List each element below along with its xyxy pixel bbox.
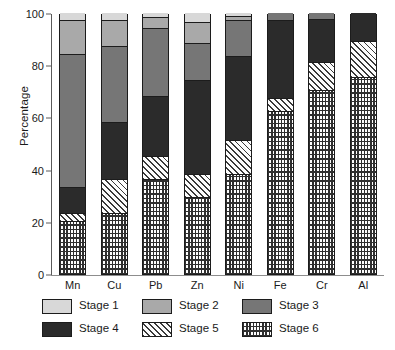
legend-swatch-stage-6	[242, 322, 272, 337]
x-tick-label-mn: Mn	[53, 279, 93, 291]
bar-segment-fe-stage-4	[268, 21, 293, 99]
legend-item-stage-6[interactable]: Stage 6	[242, 319, 342, 339]
bar-segment-fe-stage-3	[268, 13, 293, 21]
x-tick-label-pb: Pb	[136, 279, 176, 291]
bar-segment-ni-stage-3	[226, 21, 251, 58]
legend-label: Stage 4	[79, 323, 119, 335]
legend-row: Stage 4Stage 5Stage 6	[42, 319, 342, 339]
legend-label: Stage 5	[179, 323, 219, 335]
chart-legend: Stage 1Stage 2Stage 3 Stage 4Stage 5Stag…	[42, 296, 342, 344]
bar-segment-zn-stage-2	[185, 23, 210, 44]
bar-segment-zn-stage-5	[185, 175, 210, 198]
y-axis-tick-labels: 020406080100	[0, 0, 52, 290]
bar-pb[interactable]	[142, 14, 169, 275]
bar-segment-pb-stage-5	[143, 157, 168, 180]
bar-segment-ni-stage-5	[226, 141, 251, 175]
legend-swatch-stage-5	[142, 322, 172, 337]
bar-segment-pb-stage-4	[143, 97, 168, 157]
bar-cr[interactable]	[308, 14, 335, 275]
bar-fe[interactable]	[267, 14, 294, 275]
stacked-bar-chart-figure: Percentage 020406080100 MnCuPbZnNiFeCrAl…	[0, 0, 395, 350]
bar-segment-zn-stage-6	[185, 198, 210, 274]
legend-item-stage-5[interactable]: Stage 5	[142, 319, 242, 339]
legend-label: Stage 3	[279, 300, 319, 312]
bar-segment-fe-stage-6	[268, 112, 293, 274]
bar-segment-cu-stage-4	[102, 123, 127, 180]
bar-segment-pb-stage-2	[143, 18, 168, 28]
legend-item-stage-3[interactable]: Stage 3	[242, 296, 342, 316]
x-tick-label-cu: Cu	[94, 279, 134, 291]
bar-segment-ni-stage-1	[226, 13, 251, 17]
x-tick-label-al: Al	[343, 279, 383, 291]
bar-segment-mn-stage-4	[60, 188, 85, 214]
y-tick-label: 0	[38, 270, 44, 281]
bar-segment-fe-stage-5	[268, 99, 293, 112]
x-tick-label-fe: Fe	[260, 279, 300, 291]
legend-item-stage-1[interactable]: Stage 1	[42, 296, 142, 316]
bar-segment-cu-stage-6	[102, 214, 127, 274]
bar-segment-pb-stage-1	[143, 13, 168, 18]
legend-label: Stage 1	[79, 300, 119, 312]
legend-swatch-stage-3	[242, 299, 272, 314]
y-tick-label: 80	[32, 61, 44, 72]
bar-segment-zn-stage-4	[185, 81, 210, 175]
bars-layer	[52, 14, 384, 275]
bar-zn[interactable]	[184, 14, 211, 275]
legend-item-stage-2[interactable]: Stage 2	[142, 296, 242, 316]
bar-segment-cu-stage-3	[102, 47, 127, 123]
y-tick-label: 20	[32, 217, 44, 228]
bar-segment-ni-stage-4	[226, 57, 251, 141]
legend-label: Stage 6	[279, 323, 319, 335]
bar-segment-cr-stage-5	[309, 63, 334, 92]
bar-segment-ni-stage-6	[226, 175, 251, 274]
x-tick-label-ni: Ni	[219, 279, 259, 291]
bar-segment-al-stage-6	[351, 78, 376, 274]
y-tick-label: 40	[32, 165, 44, 176]
bar-segment-pb-stage-3	[143, 29, 168, 97]
legend-swatch-stage-4	[42, 322, 72, 337]
bar-segment-mn-stage-6	[60, 222, 85, 274]
bar-al[interactable]	[350, 14, 377, 275]
bar-segment-mn-stage-1	[60, 13, 85, 21]
bar-segment-mn-stage-5	[60, 214, 85, 222]
y-tick-label: 60	[32, 113, 44, 124]
x-axis-line	[51, 275, 384, 276]
bar-segment-al-stage-5	[351, 42, 376, 79]
legend-swatch-stage-2	[142, 299, 172, 314]
bar-cu[interactable]	[101, 14, 128, 275]
bar-segment-cr-stage-3	[309, 13, 334, 20]
bar-segment-cu-stage-1	[102, 13, 127, 21]
legend-swatch-stage-1	[42, 299, 72, 314]
bar-segment-pb-stage-6	[143, 180, 168, 274]
legend-row: Stage 1Stage 2Stage 3	[42, 296, 342, 316]
bar-segment-zn-stage-1	[185, 13, 210, 23]
bar-segment-mn-stage-3	[60, 55, 85, 188]
x-tick-label-zn: Zn	[177, 279, 217, 291]
bar-segment-cr-stage-6	[309, 91, 334, 274]
bar-segment-zn-stage-3	[185, 44, 210, 81]
y-tick-label: 100	[26, 9, 44, 20]
bar-segment-mn-stage-2	[60, 21, 85, 55]
bar-segment-cu-stage-2	[102, 21, 127, 47]
plot-area: Percentage 020406080100 MnCuPbZnNiFeCrAl	[0, 0, 395, 290]
bar-segment-cr-stage-4	[309, 20, 334, 63]
bar-segment-ni-stage-2	[226, 17, 251, 21]
bar-segment-al-stage-4	[351, 13, 376, 42]
bar-mn[interactable]	[59, 14, 86, 275]
bar-segment-cu-stage-5	[102, 180, 127, 214]
legend-item-stage-4[interactable]: Stage 4	[42, 319, 142, 339]
bar-ni[interactable]	[225, 14, 252, 275]
legend-label: Stage 2	[179, 300, 219, 312]
x-tick-label-cr: Cr	[302, 279, 342, 291]
